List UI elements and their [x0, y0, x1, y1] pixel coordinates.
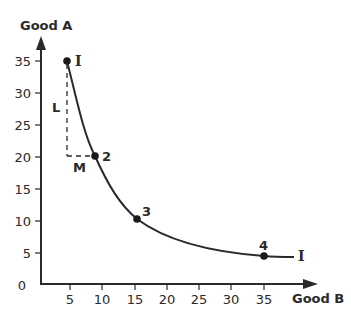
origin-label: 0: [18, 278, 26, 293]
y-tick-label: 15: [14, 182, 31, 197]
curve-start-label: I: [75, 53, 82, 69]
point-3-label: 3: [142, 204, 151, 219]
x-tick-labels: 5 10 15 20 25 30 35: [66, 292, 272, 307]
y-tick-labels: 35 30 25 20 15 10 5 0: [14, 54, 31, 293]
x-axis-arrow-icon: [303, 279, 318, 289]
y-axis-title: Good A: [20, 18, 72, 33]
y-tick-label: 5: [23, 246, 31, 261]
y-axis-arrow-icon: [36, 36, 46, 50]
y-tick-label: 30: [14, 86, 31, 101]
x-tick-label: 5: [66, 292, 74, 307]
segment-L-label: L: [52, 100, 60, 115]
curve-end-label: I: [298, 248, 305, 264]
point-2: [91, 152, 99, 160]
x-tick-label: 25: [191, 292, 208, 307]
point-2-label: 2: [102, 149, 111, 164]
point-4: [260, 252, 268, 260]
x-tick-label: 15: [127, 292, 144, 307]
point-4-label: 4: [259, 238, 268, 253]
x-tick-label: 35: [256, 292, 273, 307]
point-1: [63, 57, 71, 65]
x-tick-label: 30: [223, 292, 240, 307]
y-tick-label: 25: [14, 118, 31, 133]
segment-M-label: M: [73, 160, 86, 175]
point-3: [133, 215, 141, 223]
indifference-curve-chart: Good A Good B 35 30 25 20 15 10 5 0 5 10…: [0, 0, 351, 323]
x-axis-title: Good B: [292, 291, 344, 306]
data-points: [63, 57, 268, 260]
x-tick-label: 10: [94, 292, 111, 307]
y-tick-label: 35: [14, 54, 31, 69]
y-tick-label: 10: [14, 214, 31, 229]
y-tick-label: 20: [14, 150, 31, 165]
x-tick-label: 20: [159, 292, 176, 307]
